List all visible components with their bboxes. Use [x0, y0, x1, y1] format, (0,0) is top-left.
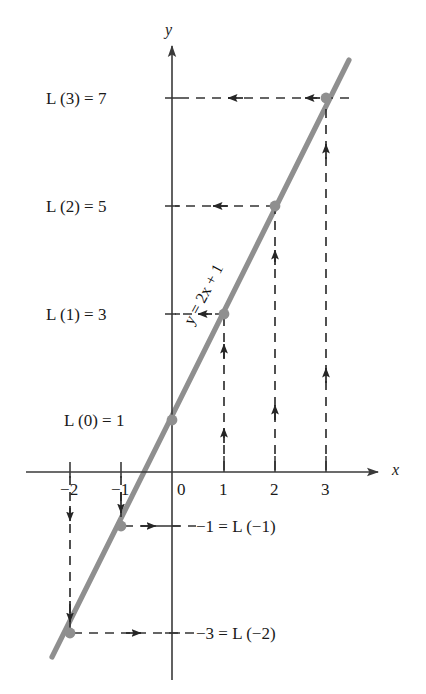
value-label-L3: L (3) = 7	[46, 89, 106, 109]
x-tick-label-1: 1	[219, 481, 228, 498]
point-x--2	[65, 628, 76, 639]
x-tick-label--2: −2	[60, 481, 79, 498]
x-tick-label-0: 0	[177, 481, 186, 498]
x-axis-ticks	[70, 456, 326, 478]
point-x--1	[116, 521, 127, 532]
value-label-L0: L (0) = 1	[64, 411, 124, 431]
point-x-1	[219, 309, 230, 320]
x-axis-label: x	[392, 462, 399, 478]
point-x-3	[321, 93, 332, 104]
value-label-Lm1: −1 = L (−1)	[196, 517, 276, 537]
value-label-L2: L (2) = 5	[46, 197, 106, 217]
value-label-Lm2: −3 = L (−2)	[196, 624, 276, 644]
x-tick-label--1: −1	[111, 481, 130, 498]
figure-root: y x L (3) = 7 L (2) = 5 L (1) = 3 L (0) …	[0, 0, 426, 694]
value-label-L1: L (1) = 3	[46, 305, 106, 325]
function-line-group	[52, 60, 349, 657]
x-tick-label-3: 3	[321, 481, 330, 498]
x-tick-label-2: 2	[270, 481, 279, 498]
point-x-0	[167, 415, 178, 426]
horizontal-connector-negative-arrows	[126, 526, 156, 633]
point-x-2	[270, 201, 281, 212]
y-axis-label: y	[165, 22, 172, 38]
function-line	[52, 60, 349, 657]
